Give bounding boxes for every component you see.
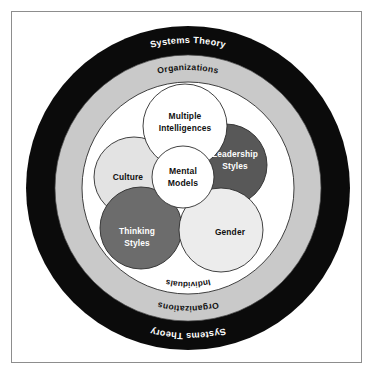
mental-models-label-line2: Models: [168, 178, 199, 188]
bubble-label-gender: Gender: [215, 227, 246, 237]
leadership-styles-label-line1: Leadership: [212, 149, 258, 159]
thinking-styles-label-line2: Styles: [124, 238, 150, 248]
mental-models-circle: [152, 146, 214, 208]
bubble-mental-models[interactable]: [152, 146, 214, 208]
bubble-label-culture: Culture: [113, 172, 144, 182]
nested-circles-diagram: Systems Theory Organizations Individuals…: [0, 0, 372, 374]
thinking-styles-label-line1: Thinking: [119, 226, 155, 236]
gender-label: Gender: [215, 227, 246, 237]
culture-label: Culture: [113, 172, 144, 182]
mental-models-label-line1: Mental: [169, 166, 197, 176]
diagram-canvas: Systems Theory Organizations Individuals…: [0, 0, 372, 374]
leadership-styles-label-line2: Styles: [222, 161, 248, 171]
multiple-intelligences-label-line1: Multiple: [169, 111, 202, 121]
multiple-intelligences-label-line2: Intelligences: [159, 123, 212, 133]
